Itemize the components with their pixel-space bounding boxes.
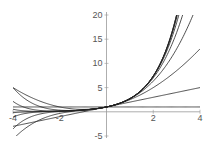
y-tick-label: 15 <box>92 34 102 44</box>
y-tick-label: 10 <box>92 58 102 68</box>
y-tick-label: -5 <box>94 131 102 141</box>
x-tick-label: -4 <box>9 113 17 123</box>
y-tick-label: 5 <box>97 83 102 93</box>
x-tick-label: 2 <box>151 113 156 123</box>
y-tick-label: 20 <box>92 10 102 20</box>
plot-area: -4-224-55101520 <box>0 0 213 146</box>
x-tick-label: 4 <box>197 113 202 123</box>
chart: -4-224-55101520 <box>0 0 213 146</box>
